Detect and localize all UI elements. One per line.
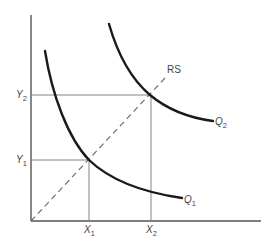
isoquant-q1-label: Q1 [184, 194, 196, 208]
ray-rs [31, 78, 165, 221]
isoquant-diagram: RS Q1 Q2 Y2 Y1 X1 X2 [0, 0, 270, 241]
isoquant-q2-label: Q2 [215, 116, 227, 130]
x1-label: X1 [83, 224, 95, 238]
guide-y2-x2 [31, 95, 151, 221]
y2-label: Y2 [16, 89, 27, 103]
x2-label: X2 [145, 224, 157, 238]
isoquant-q1 [45, 51, 182, 198]
y1-label: Y1 [16, 154, 27, 168]
ray-rs-label: RS [167, 64, 181, 75]
isoquant-q2 [109, 24, 213, 121]
